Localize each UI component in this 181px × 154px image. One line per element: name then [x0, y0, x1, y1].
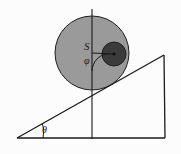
physics-diagram-figure: S φ θ: [0, 0, 181, 154]
label-center-of-mass: S: [84, 40, 90, 52]
diagram-canvas: S φ θ: [0, 0, 181, 154]
label-angle-theta: θ: [42, 124, 47, 135]
label-angle-phi: φ: [84, 55, 90, 66]
